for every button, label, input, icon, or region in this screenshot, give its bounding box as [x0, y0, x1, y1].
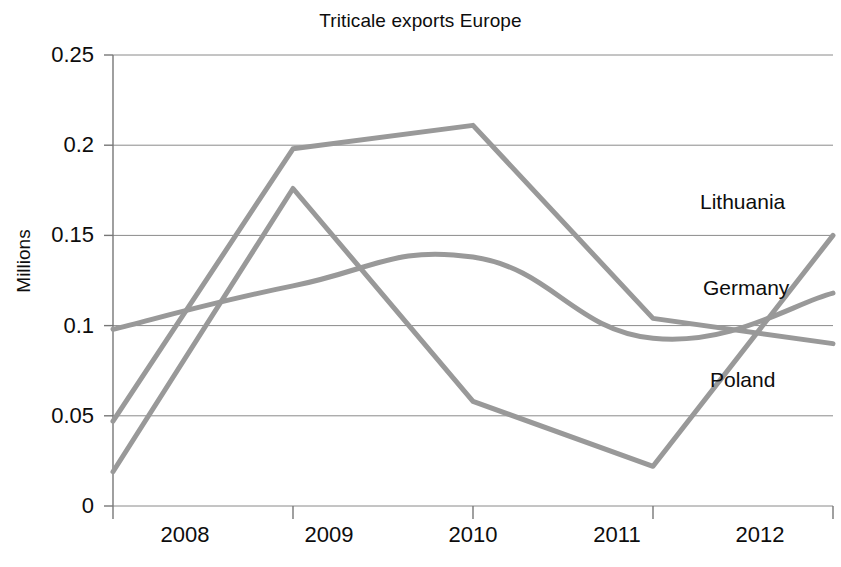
series-label-germany: Germany — [703, 276, 789, 300]
chart-container: Triticale exports Europe Millions 0.25 0… — [0, 0, 841, 567]
series-label-poland: Poland — [710, 368, 775, 392]
series-label-lithuania: Lithuania — [700, 190, 785, 214]
